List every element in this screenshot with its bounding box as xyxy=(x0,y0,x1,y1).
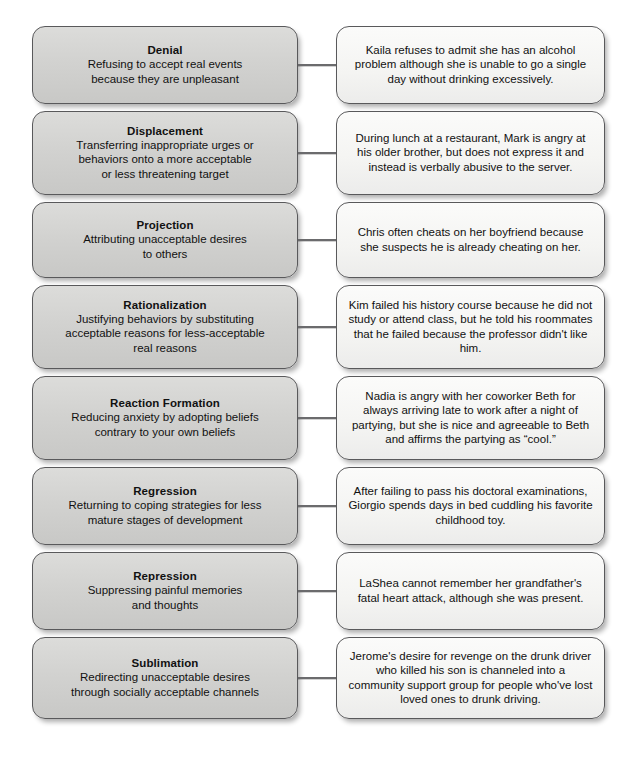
term-title: Rationalization xyxy=(123,298,206,312)
connector-regression xyxy=(298,467,336,545)
connector-line xyxy=(298,590,336,593)
connector-repression xyxy=(298,552,336,630)
diagram-row: Projection Attributing unacceptable desi… xyxy=(32,202,605,278)
term-title: Displacement xyxy=(127,124,203,138)
connector-line xyxy=(298,152,336,155)
example-text: After failing to pass his doctoral exami… xyxy=(347,484,594,528)
term-description: Refusing to accept real events because t… xyxy=(88,57,243,86)
example-box-regression: After failing to pass his doctoral exami… xyxy=(336,467,605,545)
term-box-displacement: Displacement Transferring inappropriate … xyxy=(32,111,298,195)
example-text: Jerome's desire for revenge on the drunk… xyxy=(347,649,594,707)
term-title: Repression xyxy=(133,569,197,583)
term-box-projection: Projection Attributing unacceptable desi… xyxy=(32,202,298,278)
example-box-displacement: During lunch at a restaurant, Mark is an… xyxy=(336,111,605,195)
connector-line xyxy=(298,417,336,420)
term-box-reaction-formation: Reaction Formation Reducing anxiety by a… xyxy=(32,376,298,460)
example-box-repression: LaShea cannot remember her grandfather's… xyxy=(336,552,605,630)
term-box-denial: Denial Refusing to accept real events be… xyxy=(32,26,298,104)
diagram-row: Denial Refusing to accept real events be… xyxy=(32,26,605,104)
term-description: Attributing unacceptable desires to othe… xyxy=(83,232,247,261)
connector-denial xyxy=(298,26,336,104)
example-text: Kaila refuses to admit she has an alcoho… xyxy=(347,43,594,87)
diagram-row: Reaction Formation Reducing anxiety by a… xyxy=(32,376,605,460)
diagram-row: Displacement Transferring inappropriate … xyxy=(32,111,605,195)
example-text: Nadia is angry with her coworker Beth fo… xyxy=(347,389,594,447)
term-box-rationalization: Rationalization Justifying behaviors by … xyxy=(32,285,298,369)
example-box-rationalization: Kim failed his history course because he… xyxy=(336,285,605,369)
term-title: Reaction Formation xyxy=(110,396,220,410)
term-box-repression: Repression Suppressing painful memories … xyxy=(32,552,298,630)
connector-displacement xyxy=(298,111,336,195)
term-description: Suppressing painful memories and thought… xyxy=(88,583,243,612)
connector-line xyxy=(298,64,336,67)
example-box-projection: Chris often cheats on her boyfriend beca… xyxy=(336,202,605,278)
diagram-row: Sublimation Redirecting unacceptable des… xyxy=(32,637,605,719)
term-box-sublimation: Sublimation Redirecting unacceptable des… xyxy=(32,637,298,719)
example-text: Chris often cheats on her boyfriend beca… xyxy=(347,225,594,254)
term-title: Regression xyxy=(133,484,197,498)
connector-line xyxy=(298,677,336,680)
connector-rationalization xyxy=(298,285,336,369)
connector-line xyxy=(298,239,336,242)
diagram-row: Regression Returning to coping strategie… xyxy=(32,467,605,545)
term-description: Returning to coping strategies for less … xyxy=(68,498,261,527)
diagram-row: Rationalization Justifying behaviors by … xyxy=(32,285,605,369)
connector-reaction-formation xyxy=(298,376,336,460)
term-description: Reducing anxiety by adopting beliefs con… xyxy=(71,410,258,439)
connector-sublimation xyxy=(298,637,336,719)
term-description: Justifying behaviors by substituting acc… xyxy=(65,312,264,356)
connector-line xyxy=(298,326,336,329)
example-box-sublimation: Jerome's desire for revenge on the drunk… xyxy=(336,637,605,719)
connector-line xyxy=(298,505,336,508)
term-description: Transferring inappropriate urges or beha… xyxy=(76,138,253,182)
example-box-denial: Kaila refuses to admit she has an alcoho… xyxy=(336,26,605,104)
example-box-reaction-formation: Nadia is angry with her coworker Beth fo… xyxy=(336,376,605,460)
term-title: Denial xyxy=(147,43,182,57)
example-text: Kim failed his history course because he… xyxy=(347,298,594,356)
defense-mechanisms-diagram: Denial Refusing to accept real events be… xyxy=(0,0,633,766)
term-title: Projection xyxy=(136,218,193,232)
example-text: During lunch at a restaurant, Mark is an… xyxy=(347,131,594,175)
example-text: LaShea cannot remember her grandfather's… xyxy=(347,576,594,605)
term-title: Sublimation xyxy=(132,656,199,670)
term-description: Redirecting unacceptable desires through… xyxy=(71,670,259,699)
connector-projection xyxy=(298,202,336,278)
diagram-row: Repression Suppressing painful memories … xyxy=(32,552,605,630)
term-box-regression: Regression Returning to coping strategie… xyxy=(32,467,298,545)
